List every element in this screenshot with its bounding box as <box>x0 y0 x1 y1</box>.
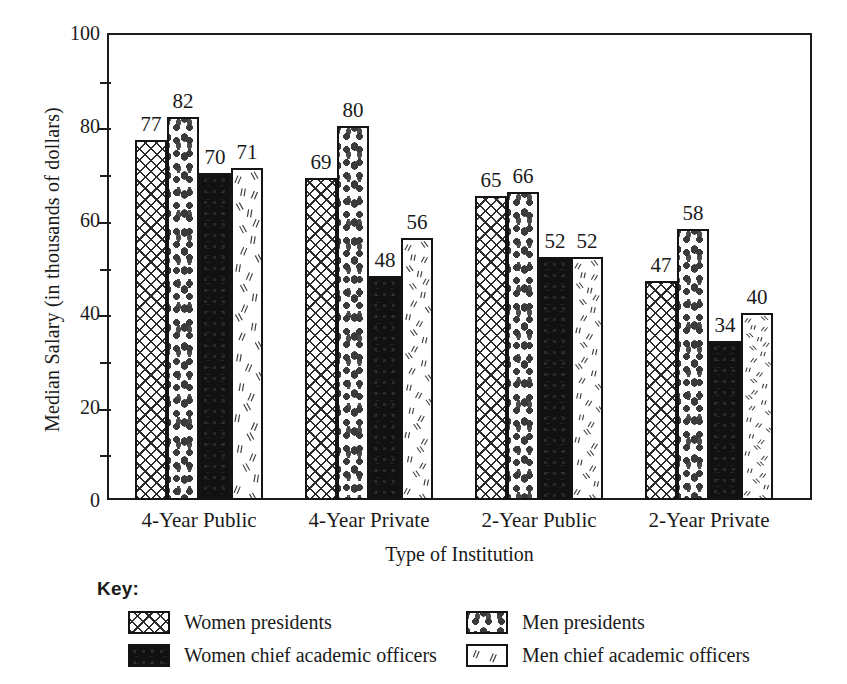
bar-fill-slashes <box>233 170 261 498</box>
legend-swatch-crosshatch <box>128 611 170 634</box>
bar-value-label: 82 <box>158 91 208 112</box>
legend-row: Women presidentsMen presidents <box>128 606 843 639</box>
bar <box>645 281 677 500</box>
legend-label: Women presidents <box>184 611 332 634</box>
bar <box>199 173 231 500</box>
legend-swatch-fill <box>130 613 168 632</box>
bar-value-label: 34 <box>700 315 750 336</box>
legend-swatch-fill <box>468 613 506 632</box>
bar <box>741 313 773 500</box>
legend-label: Men presidents <box>522 611 645 634</box>
x-category-label: 2-Year Private <box>599 508 819 533</box>
bar-fill-crosshatch <box>307 180 335 498</box>
bar <box>475 196 507 500</box>
legend-swatch-dots <box>466 611 508 634</box>
bar-value-label: 56 <box>392 212 442 233</box>
bar-value-label: 69 <box>296 152 346 173</box>
bar-value-label: 71 <box>222 142 272 163</box>
legend-item: Women chief academic officers <box>128 644 466 667</box>
bar-value-label: 80 <box>328 100 378 121</box>
legend-item: Women presidents <box>128 611 466 634</box>
bar-value-label: 48 <box>360 250 410 271</box>
bar-fill-crosshatch <box>137 142 165 498</box>
bar-fill-solid <box>711 343 739 498</box>
bar-fill-slashes <box>403 240 431 498</box>
y-tick-label: 40 <box>46 303 100 323</box>
bar <box>305 178 337 500</box>
bar <box>401 238 433 500</box>
bar-value-label: 77 <box>126 114 176 135</box>
bar <box>337 126 369 500</box>
y-axis-tick-labels: 020406080100 <box>44 0 100 684</box>
legend-label: Women chief academic officers <box>184 644 437 667</box>
bar <box>231 168 263 500</box>
legend: Women presidentsMen presidentsWomen chie… <box>128 606 843 672</box>
legend-swatch-slashes <box>466 644 508 667</box>
bar-fill-slashes <box>743 315 771 498</box>
bar-value-label: 52 <box>562 231 612 252</box>
bar-fill-crosshatch <box>477 198 505 498</box>
legend-item: Men chief academic officers <box>466 644 750 667</box>
bar-value-label: 58 <box>668 203 718 224</box>
bar-value-label: 40 <box>732 287 782 308</box>
bar-fill-slashes <box>573 259 601 498</box>
bar-fill-solid <box>201 175 229 498</box>
bar <box>135 140 167 500</box>
bar <box>539 257 571 500</box>
y-tick-label: 60 <box>46 210 100 230</box>
bar-fill-dots <box>169 119 197 498</box>
x-axis-title: Type of Institution <box>107 543 812 566</box>
legend-swatch-fill <box>130 646 168 665</box>
bar-fill-dots <box>339 128 367 498</box>
bar <box>709 341 741 500</box>
bar-fill-solid <box>541 259 569 498</box>
bar-value-label: 47 <box>636 255 686 276</box>
bar <box>167 117 199 500</box>
bar <box>369 276 401 500</box>
bar-fill-solid <box>371 278 399 498</box>
legend-swatch-fill <box>468 646 506 665</box>
y-tick-label: 100 <box>46 23 100 43</box>
legend-title: Key: <box>97 578 139 600</box>
bars-layer: 778270 <box>107 33 812 500</box>
bar-fill-crosshatch <box>647 283 675 498</box>
legend-item: Men presidents <box>466 611 645 634</box>
y-tick-label: 0 <box>46 490 100 510</box>
legend-swatch-solid <box>128 644 170 667</box>
legend-row: Women chief academic officers Men chief … <box>128 639 843 672</box>
legend-label: Men chief academic officers <box>522 644 750 667</box>
y-tick-label: 20 <box>46 397 100 417</box>
bar <box>571 257 603 500</box>
y-tick-label: 80 <box>46 116 100 136</box>
bar-value-label: 66 <box>498 166 548 187</box>
bar-chart-figure: Median Salary (in thousands of dollars) … <box>0 0 847 684</box>
